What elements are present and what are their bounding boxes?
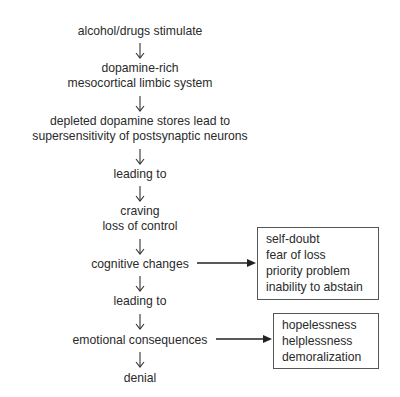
step-text: leading to	[0, 294, 280, 309]
cognitive-effects-box: self-doubt fear of loss priority problem…	[257, 227, 379, 300]
box-item: demoralization	[282, 349, 378, 365]
step-craving-loss-of-control: craving loss of control	[0, 204, 280, 234]
step-alcohol-drugs-stimulate: alcohol/drugs stimulate	[0, 24, 280, 39]
right-arrow-icon	[197, 258, 257, 268]
down-arrow-icon	[134, 43, 146, 59]
box-item: self-doubt	[266, 231, 378, 247]
box-item: hopelessness	[282, 317, 378, 333]
step-text: leading to	[0, 167, 280, 182]
step-leading-to-2: leading to	[0, 294, 280, 309]
down-arrow-icon	[134, 239, 146, 255]
down-arrow-icon	[134, 314, 146, 330]
step-text: denial	[0, 371, 280, 386]
step-text: craving	[0, 204, 280, 219]
step-text: mesocortical limbic system	[0, 76, 280, 91]
step-leading-to-1: leading to	[0, 167, 280, 182]
down-arrow-icon	[134, 149, 146, 165]
step-text: dopamine-rich	[0, 61, 280, 76]
down-arrow-icon	[134, 186, 146, 202]
step-text: depleted dopamine stores lead to	[0, 114, 280, 129]
down-arrow-icon	[134, 352, 146, 368]
right-arrow-icon	[216, 334, 273, 344]
box-item: fear of loss	[266, 247, 378, 263]
step-depleted-dopamine: depleted dopamine stores lead to superse…	[0, 114, 280, 144]
box-item: inability to abstain	[266, 279, 378, 295]
box-item: priority problem	[266, 263, 378, 279]
down-arrow-icon	[134, 96, 146, 112]
step-text: alcohol/drugs stimulate	[0, 24, 280, 39]
step-text: supersensitivity of postsynaptic neurons	[0, 129, 280, 144]
emotional-effects-box: hopelessness helplessness demoralization	[273, 313, 379, 369]
box-item: helplessness	[282, 333, 378, 349]
step-dopamine-rich-system: dopamine-rich mesocortical limbic system	[0, 61, 280, 91]
down-arrow-icon	[134, 276, 146, 292]
step-denial: denial	[0, 371, 280, 386]
step-text: loss of control	[0, 219, 280, 234]
